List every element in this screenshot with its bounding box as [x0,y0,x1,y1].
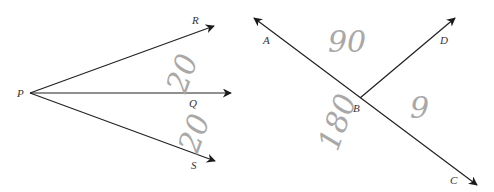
right-figure-angles-at-B: A B C D 90 180 9 [254,18,477,186]
handwritten-angle-ABD: 90 [328,24,366,59]
label-A: A [262,34,270,46]
label-Q: Q [189,97,197,109]
handwritten-angle-QPS: 20 [171,109,217,158]
label-P: P [16,87,24,99]
geometry-diagram: P R Q S 20 20 A B C D 90 180 9 [0,0,494,192]
handwritten-angle-ABC: 180 [311,89,363,155]
label-C: C [450,174,458,186]
handwritten-angle-RPQ: 20 [159,49,205,98]
label-S: S [191,159,197,171]
ray-BD [360,18,455,98]
label-D: D [439,34,448,46]
label-R: R [191,14,199,26]
handwritten-angle-DBC: 9 [410,90,429,125]
left-figure-angles-at-P: P R Q S 20 20 [16,14,231,171]
